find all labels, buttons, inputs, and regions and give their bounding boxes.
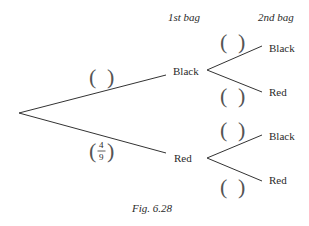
node-2nd-black-red: Red bbox=[269, 86, 287, 98]
svg-text:): ) bbox=[238, 174, 245, 199]
prob-root-red: ( 4 9 ) bbox=[89, 138, 114, 163]
edge-black-black bbox=[207, 46, 262, 70]
svg-text:): ) bbox=[238, 117, 245, 142]
svg-text:(: ( bbox=[220, 83, 227, 108]
svg-text:(: ( bbox=[89, 138, 96, 163]
fraction-numerator: 4 bbox=[99, 140, 104, 150]
node-1st-red: Red bbox=[174, 152, 192, 164]
node-1st-black: Black bbox=[173, 65, 199, 77]
edge-red-black bbox=[207, 135, 262, 158]
edge-black-red bbox=[207, 70, 262, 92]
header-2nd-bag: 2nd bag bbox=[258, 11, 294, 23]
svg-text:): ) bbox=[238, 83, 245, 108]
svg-text:(: ( bbox=[89, 64, 96, 89]
prob-black-red: ( ) bbox=[220, 83, 245, 108]
edge-red-red bbox=[207, 158, 262, 181]
svg-text:(: ( bbox=[220, 29, 227, 54]
node-2nd-red-red: Red bbox=[269, 174, 287, 186]
svg-text:(: ( bbox=[220, 117, 227, 142]
prob-red-black: ( ) bbox=[220, 117, 245, 142]
svg-text:): ) bbox=[107, 64, 114, 89]
header-1st-bag: 1st bag bbox=[168, 11, 201, 23]
prob-red-red: ( ) bbox=[220, 174, 245, 199]
node-2nd-red-black: Black bbox=[269, 130, 295, 142]
svg-text:): ) bbox=[238, 29, 245, 54]
prob-root-black: ( ) bbox=[89, 64, 114, 89]
figure-caption: Fig. 6.28 bbox=[131, 202, 173, 214]
svg-text:(: ( bbox=[220, 174, 227, 199]
svg-text:): ) bbox=[107, 138, 114, 163]
node-2nd-black-black: Black bbox=[269, 42, 295, 54]
prob-black-black: ( ) bbox=[220, 29, 245, 54]
fraction-denominator: 9 bbox=[99, 152, 104, 162]
tree-diagram: 1st bag 2nd bag Black Red ( ) ( 4 9 ) Bl… bbox=[0, 0, 309, 226]
